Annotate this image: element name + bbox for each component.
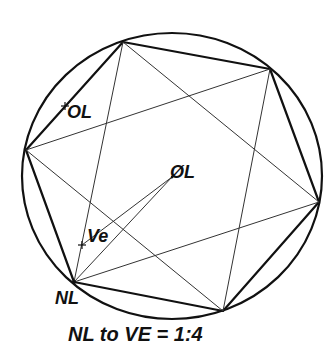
- label-ve: Ve: [87, 226, 108, 246]
- nl-point: [72, 280, 76, 284]
- diagonal-topright-to-bottom: [223, 69, 270, 311]
- label-oslashl: ØL: [170, 162, 195, 182]
- ve-marker: [78, 241, 86, 249]
- hexagon-diagram: OL ØL Ve NL NL to VE = 1:4: [0, 0, 333, 359]
- label-nl: NL: [55, 288, 79, 308]
- ratio-caption: NL to VE = 1:4: [68, 323, 203, 345]
- label-ol: OL: [67, 102, 92, 122]
- diagonal-top-to-nl: [74, 42, 123, 282]
